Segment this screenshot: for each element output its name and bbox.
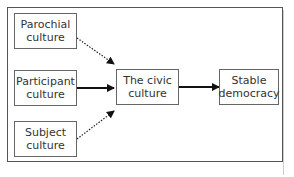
- node-label-line1: Parochial: [21, 18, 71, 31]
- node-label-line1: Stable: [218, 74, 279, 87]
- node-label-line1: The civic: [123, 74, 172, 87]
- node-label-line2: culture: [123, 87, 172, 100]
- node-label-line1: Participant: [16, 75, 75, 88]
- node-label-line2: culture: [16, 88, 75, 101]
- node-parochial-culture: Parochial culture: [14, 13, 77, 49]
- arrow-subject-to-civic: [77, 111, 114, 139]
- node-stable-democracy: Stable democracy: [219, 69, 279, 105]
- node-subject-culture: Subject culture: [14, 121, 77, 157]
- node-label-line2: culture: [25, 139, 66, 152]
- node-label-line2: culture: [21, 31, 71, 44]
- arrow-parochial-to-civic: [77, 38, 114, 64]
- node-participant-culture: Participant culture: [14, 70, 77, 106]
- node-civic-culture: The civic culture: [116, 69, 179, 105]
- node-label-line1: Subject: [25, 126, 66, 139]
- node-label-line2: democracy: [218, 87, 279, 100]
